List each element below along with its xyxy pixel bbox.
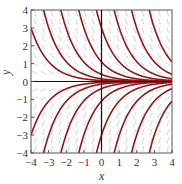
x-tick-label: 0 xyxy=(99,156,105,168)
y-tick-label: −3 xyxy=(16,129,28,141)
x-tick-label: 2 xyxy=(134,156,140,168)
y-tick-label: −2 xyxy=(16,111,28,123)
x-tick-label: −2 xyxy=(60,156,72,168)
x-tick-label: −1 xyxy=(78,156,90,168)
x-axis-label: x xyxy=(98,169,105,183)
x-tick-label: 1 xyxy=(116,156,122,168)
direction-field-chart: −4−3−2−10123443210−1−2−3−4 x y xyxy=(0,0,182,184)
y-tick-label: −4 xyxy=(16,147,28,159)
y-tick-label: 1 xyxy=(23,58,29,70)
y-tick-label: 2 xyxy=(23,40,29,52)
y-axis-label: y xyxy=(0,69,13,76)
x-tick-label: 4 xyxy=(169,156,175,168)
y-tick-label: −1 xyxy=(16,93,28,105)
y-tick-label: 3 xyxy=(23,22,29,34)
x-tick-label: −3 xyxy=(43,156,55,168)
y-tick-label: 4 xyxy=(23,4,29,16)
x-tick-label: 3 xyxy=(152,156,158,168)
y-tick-label: 0 xyxy=(23,76,29,88)
solution-curve xyxy=(149,8,172,62)
